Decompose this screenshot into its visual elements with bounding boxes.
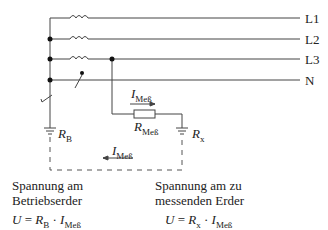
- resistor-label-rb: RB: [58, 126, 72, 147]
- switch-contact-dot: [80, 71, 84, 75]
- label-L1: L1: [305, 11, 319, 26]
- resistor-label-rx: Rx: [192, 126, 204, 147]
- formula-eq: =: [178, 212, 185, 227]
- resistor-subscript: x: [200, 134, 205, 144]
- formula-r-sub: B: [43, 220, 49, 230]
- current-label-upper: IMeß: [131, 86, 152, 107]
- junction-dot-L2: [48, 37, 53, 42]
- inductor-L1: [70, 16, 88, 19]
- label-L2: L2: [305, 32, 319, 47]
- resistor-rmess: [134, 110, 155, 118]
- right-caption-line2: messenden Erder: [155, 193, 244, 208]
- left-caption-line1: Spannung am: [12, 178, 83, 193]
- formula-i-sub: Meß: [216, 220, 233, 230]
- junction-dot-branch: [110, 57, 115, 62]
- label-N: N: [305, 73, 314, 88]
- inductor-L2: [70, 37, 88, 40]
- formula-r: R: [35, 212, 43, 227]
- junction-dot-L3: [48, 57, 53, 62]
- right-caption-line1: Spannung am zu: [155, 178, 244, 193]
- left-caption-line2: Betriebserder: [12, 193, 83, 208]
- resistor-symbol: R: [134, 119, 142, 134]
- switch-N: [75, 75, 82, 88]
- inductor-L3: [70, 57, 88, 60]
- arrowhead-lower: [103, 156, 108, 160]
- formula-dot: ·: [52, 212, 56, 227]
- formula-u: U: [165, 212, 174, 227]
- earth-symbol-rx: [176, 128, 188, 134]
- left-caption-formula: U = RB · IMeß: [12, 212, 83, 230]
- left-caption: Spannung am Betriebserder U = RB · IMeß: [12, 178, 83, 230]
- right-caption: Spannung am zu messenden Erder U = Rx · …: [155, 178, 244, 230]
- current-subscript: Meß: [116, 151, 133, 161]
- formula-r-sub: x: [196, 220, 201, 230]
- formula-r: R: [188, 212, 196, 227]
- resistor-symbol: R: [58, 126, 66, 141]
- current-label-lower: IMeß: [112, 143, 133, 164]
- junction-dot-N: [48, 78, 53, 83]
- resistor-label-rmess: RMeß: [134, 119, 158, 140]
- formula-i-sub: Meß: [64, 220, 81, 230]
- formula-dot: ·: [204, 212, 208, 227]
- current-subscript: Meß: [135, 94, 152, 104]
- label-L3: L3: [305, 52, 319, 67]
- resistor-subscript: Meß: [142, 127, 159, 137]
- formula-eq: =: [25, 212, 32, 227]
- earth-symbol-rb: [44, 128, 56, 134]
- formula-u: U: [12, 212, 21, 227]
- resistor-subscript: B: [66, 134, 72, 144]
- resistor-symbol: R: [192, 126, 200, 141]
- right-caption-formula: U = Rx · IMeß: [155, 212, 244, 230]
